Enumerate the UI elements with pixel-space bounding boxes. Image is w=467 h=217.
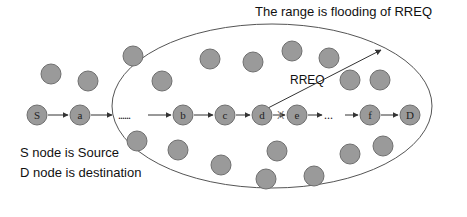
network-node — [123, 46, 143, 66]
network-node — [78, 71, 98, 91]
path-node-S: S — [27, 105, 47, 125]
path-node-b: b — [173, 105, 193, 125]
network-node — [127, 131, 147, 151]
legend-destination: D node is destination — [20, 165, 141, 180]
network-node — [340, 144, 360, 164]
network-node — [304, 166, 324, 186]
svg-text:c: c — [223, 109, 228, 121]
network-node — [282, 41, 302, 61]
svg-text:a: a — [78, 109, 83, 121]
rreq-label: RREQ — [290, 73, 325, 87]
network-node — [152, 71, 172, 91]
network-node — [340, 70, 360, 90]
network-node — [267, 141, 287, 161]
network-node — [319, 48, 339, 68]
network-node — [200, 49, 220, 69]
svg-text:D: D — [406, 109, 414, 121]
diagram-title: The range is flooding of RREQ — [255, 4, 432, 19]
network-node — [373, 136, 393, 156]
path-node-c: c — [215, 105, 235, 125]
path-node-D: D — [400, 105, 420, 125]
network-node — [243, 52, 263, 72]
svg-text:f: f — [368, 109, 372, 121]
path-node-a: a — [70, 105, 90, 125]
network-node — [256, 169, 276, 189]
network-node — [211, 155, 231, 175]
svg-text:d: d — [259, 109, 265, 121]
svg-text:S: S — [34, 109, 40, 121]
path-node-e: e — [287, 105, 307, 125]
path-node-f: f — [360, 105, 380, 125]
broken-link-x: X — [277, 109, 285, 121]
network-node — [168, 140, 188, 160]
network-node — [41, 64, 61, 84]
path-node-d: d — [252, 105, 272, 125]
svg-text:b: b — [180, 109, 186, 121]
network-node — [370, 70, 390, 90]
ellipsis-2: ... — [324, 108, 333, 122]
legend-source: S node is Source — [20, 145, 119, 160]
path-nodes-group: SabcdefD — [27, 105, 420, 125]
ellipsis-1: ...... — [118, 108, 131, 122]
svg-text:e: e — [295, 109, 300, 121]
diagram-canvas: SabcdefD ...... ... X — [0, 0, 467, 217]
